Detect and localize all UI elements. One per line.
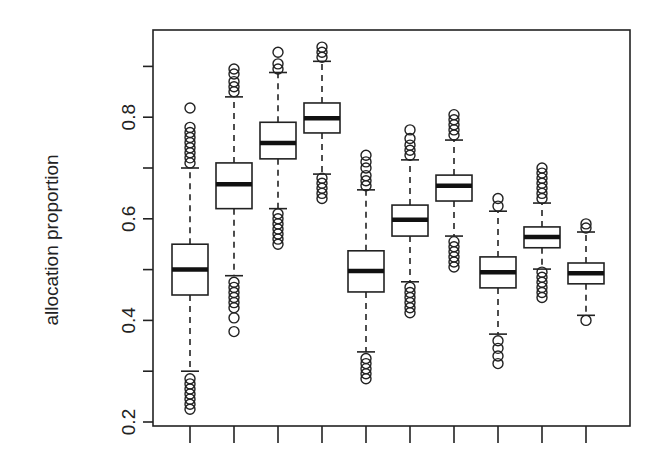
iqr-box <box>436 175 472 201</box>
outlier-point <box>229 327 239 337</box>
box-3 <box>260 47 296 249</box>
y-tick-label: 0.8 <box>118 104 139 130</box>
y-tick-label: 0.2 <box>118 409 139 435</box>
outlier-point <box>493 336 503 346</box>
y-axis: allocation proportion 0.20.40.60.8 <box>41 66 153 435</box>
outlier-point <box>493 193 503 203</box>
outlier-point <box>581 315 591 325</box>
outlier-point <box>273 47 283 57</box>
box-7 <box>436 110 472 272</box>
box-2 <box>216 64 252 337</box>
x-ticks <box>190 426 586 443</box>
box-10 <box>568 219 604 326</box>
y-tick-label: 0.6 <box>118 206 139 232</box>
box-4 <box>304 42 340 203</box>
iqr-box <box>260 122 296 159</box>
y-axis-label: allocation proportion <box>41 154 62 325</box>
outlier-point <box>361 150 371 160</box>
box-1 <box>172 103 208 414</box>
boxes <box>172 42 604 414</box>
box-6 <box>392 125 428 318</box>
y-ticks: 0.20.40.60.8 <box>118 66 153 435</box>
y-tick-label: 0.4 <box>118 307 139 334</box>
outlier-point <box>229 313 239 323</box>
box-9 <box>524 163 560 303</box>
box-8 <box>480 193 516 368</box>
boxplot-chart: allocation proportion 0.20.40.60.8 <box>0 0 667 476</box>
outlier-point <box>185 103 195 113</box>
box-5 <box>348 150 384 384</box>
